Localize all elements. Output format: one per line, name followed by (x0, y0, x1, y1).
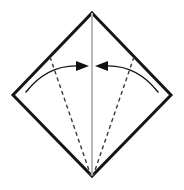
origami-fold-diagram: Origami fold step: fold both lower side … (0, 0, 184, 190)
fold-diagram-canvas: Origami fold step: fold both lower side … (0, 0, 184, 190)
